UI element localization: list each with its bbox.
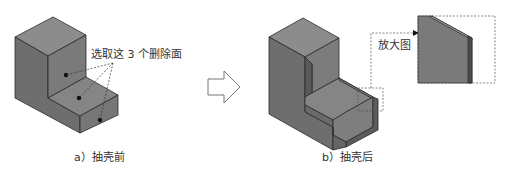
- right-arrow-icon: [208, 71, 240, 103]
- caption-before-shell: a）抽壳前: [74, 152, 125, 163]
- face-marker-1: [64, 73, 68, 77]
- diagram-canvas: [0, 0, 508, 172]
- caption-after-shell: b）抽壳后: [322, 152, 373, 163]
- magnified-view-label: 放大图: [378, 40, 411, 51]
- magnified-wall: [418, 16, 472, 83]
- shelled-block-after: [269, 18, 378, 150]
- face-selection-annotation: 选取这 3 个删除面: [91, 49, 182, 60]
